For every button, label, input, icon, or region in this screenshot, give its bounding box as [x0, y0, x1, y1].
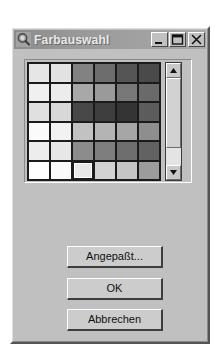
color-swatch[interactable] [73, 84, 93, 102]
color-swatch[interactable] [29, 123, 49, 141]
ok-button[interactable]: OK [67, 278, 163, 300]
color-swatch[interactable] [117, 64, 137, 82]
color-swatch[interactable] [95, 84, 115, 102]
color-swatch[interactable] [117, 162, 137, 180]
color-swatch[interactable] [51, 123, 71, 141]
color-swatch[interactable] [139, 103, 159, 121]
color-swatch[interactable] [29, 162, 49, 180]
color-swatch[interactable] [95, 162, 115, 180]
color-swatch[interactable] [29, 64, 49, 82]
color-swatch[interactable] [29, 84, 49, 102]
color-swatch[interactable] [73, 123, 93, 141]
scroll-down-icon[interactable] [166, 165, 181, 180]
color-swatch[interactable] [73, 64, 93, 82]
color-swatch[interactable] [139, 142, 159, 160]
titlebar[interactable]: Farbauswahl [14, 30, 206, 49]
color-swatch[interactable] [117, 84, 137, 102]
color-swatch[interactable] [73, 103, 93, 121]
color-picker-icon [16, 32, 31, 47]
custom-button[interactable]: Angepaßt... [67, 246, 163, 268]
window-title: Farbauswahl [31, 33, 150, 47]
color-swatch[interactable] [139, 123, 159, 141]
color-swatch[interactable] [117, 123, 137, 141]
palette-frame [24, 59, 192, 183]
palette-scrollbar[interactable] [165, 62, 182, 181]
scrollbar-thumb[interactable] [166, 78, 181, 148]
color-swatch-selected[interactable] [73, 162, 93, 180]
maximize-button[interactable] [169, 32, 186, 47]
color-grid[interactable] [27, 62, 161, 181]
scroll-up-icon[interactable] [166, 63, 181, 78]
color-swatch[interactable] [51, 103, 71, 121]
color-swatch[interactable] [117, 142, 137, 160]
cancel-button[interactable]: Abbrechen [67, 309, 163, 331]
minimize-button[interactable] [151, 32, 168, 47]
color-swatch[interactable] [51, 142, 71, 160]
color-swatch[interactable] [139, 162, 159, 180]
color-swatch[interactable] [51, 84, 71, 102]
color-swatch[interactable] [73, 142, 93, 160]
close-button[interactable] [188, 32, 205, 47]
farbauswahl-dialog: Farbauswahl [10, 26, 210, 344]
color-swatch[interactable] [51, 64, 71, 82]
color-swatch[interactable] [95, 103, 115, 121]
color-swatch[interactable] [51, 162, 71, 180]
scrollbar-track[interactable] [166, 78, 181, 165]
color-swatch[interactable] [95, 123, 115, 141]
color-swatch[interactable] [117, 103, 137, 121]
color-swatch[interactable] [95, 64, 115, 82]
color-swatch[interactable] [95, 142, 115, 160]
color-swatch[interactable] [29, 142, 49, 160]
color-swatch[interactable] [139, 84, 159, 102]
color-swatch[interactable] [29, 103, 49, 121]
color-swatch[interactable] [139, 64, 159, 82]
